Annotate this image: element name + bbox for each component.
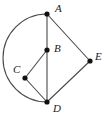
vertex-label-d: D [53, 103, 61, 114]
vertex-label-b: B [54, 43, 61, 54]
vertex-label-c: C [13, 64, 20, 75]
vertex-point-c [22, 75, 27, 80]
segment-b-c [25, 50, 47, 78]
geometry-canvas [0, 0, 107, 116]
vertex-point-e [87, 58, 92, 63]
vertex-point-d [44, 99, 49, 104]
vertex-point-b [44, 47, 49, 52]
geometry-figure: A B C D E [0, 0, 107, 116]
vertex-point-a [44, 11, 49, 16]
vertex-label-e: E [95, 51, 102, 62]
vertex-label-a: A [55, 3, 62, 14]
segment-e-d [47, 61, 90, 102]
